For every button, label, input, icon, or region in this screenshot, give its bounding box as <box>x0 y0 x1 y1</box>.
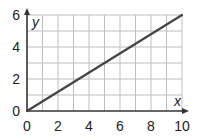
y-tick-label: 2 <box>12 71 20 87</box>
y-axis-label: y <box>31 14 40 30</box>
x-tick-label: 8 <box>147 118 155 134</box>
y-tick-label: 6 <box>12 7 20 23</box>
line-chart: 02468100246 x y <box>0 0 197 140</box>
y-axis-arrow-icon <box>24 8 30 15</box>
x-tick-label: 10 <box>174 118 190 134</box>
x-tick-label: 6 <box>116 118 124 134</box>
x-axis-label: x <box>173 93 182 109</box>
x-tick-label: 0 <box>23 118 31 134</box>
x-tick-label: 4 <box>85 118 93 134</box>
y-tick-label: 0 <box>12 103 20 119</box>
y-tick-label: 4 <box>12 39 20 55</box>
x-axis-arrow-icon <box>182 108 189 114</box>
x-tick-label: 2 <box>54 118 62 134</box>
